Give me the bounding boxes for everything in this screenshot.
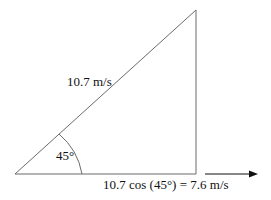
horizontal-component-label: 10.7 cos (45°) = 7.6 m/s [103, 178, 229, 191]
triangle-graphic [0, 0, 271, 200]
hypotenuse-line [15, 10, 196, 174]
hypotenuse-label: 10.7 m/s [67, 75, 112, 88]
velocity-component-diagram: 10.7 m/s 45° 10.7 cos (45°) = 7.6 m/s [0, 0, 271, 200]
angle-label: 45° [56, 149, 74, 162]
arrow-head-icon [249, 171, 258, 178]
